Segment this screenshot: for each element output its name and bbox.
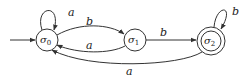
edge-label-s2-loop: b bbox=[232, 5, 239, 18]
edge-s2-s0 bbox=[52, 50, 202, 64]
fsa-diagram: a b a b b a σ0 σ1 σ2 bbox=[0, 0, 245, 81]
edge-label-s0-s1: b bbox=[86, 15, 93, 28]
edge-s0-loop bbox=[41, 10, 56, 30]
edge-label-s1-s0: a bbox=[86, 39, 93, 52]
edge-label-s0-loop: a bbox=[68, 6, 75, 19]
state-s0: σ0 bbox=[36, 29, 58, 51]
edge-s2-loop bbox=[214, 10, 227, 29]
edge-label-s1-s2: b bbox=[160, 26, 167, 39]
state-s2-accepting: σ2 bbox=[197, 27, 225, 55]
edge-label-s2-s0: a bbox=[126, 65, 133, 78]
state-s1: σ1 bbox=[124, 29, 146, 51]
